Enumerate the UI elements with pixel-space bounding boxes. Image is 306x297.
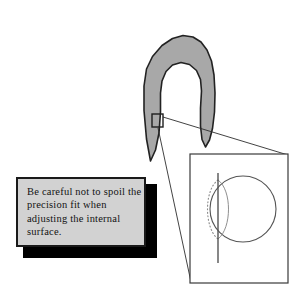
leader-line-bottom [158,128,191,282]
warning-note-box: Be careful not to spoil the precision fi… [16,177,146,247]
leader-line-top [163,117,288,155]
warning-note-text: Be careful not to spoil the precision fi… [27,185,143,239]
magnified-detail-view [190,154,288,283]
clip-shaped-component [144,36,215,162]
